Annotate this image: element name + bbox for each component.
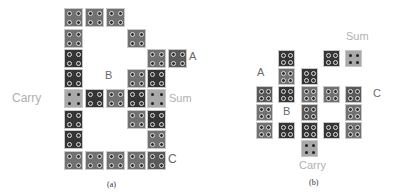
quantum-dot-icon	[326, 60, 331, 65]
quantum-dot-icon	[288, 71, 293, 76]
label-a-b: A	[257, 67, 264, 78]
quantum-dot-icon	[281, 96, 286, 101]
qca-cell	[345, 50, 362, 67]
quantum-dot-icon	[259, 96, 264, 101]
quantum-dot-icon	[259, 125, 264, 130]
quantum-dot-icon	[266, 125, 271, 130]
quantum-dot-icon	[348, 114, 353, 119]
quantum-dot-icon	[305, 151, 308, 154]
quantum-dot-icon	[355, 89, 360, 94]
label-carry-b: Carry	[299, 160, 326, 171]
quantum-dot-icon	[259, 132, 264, 137]
quantum-dot-icon	[356, 61, 359, 64]
quantum-dot-icon	[333, 96, 338, 101]
quantum-dot-icon	[281, 60, 286, 65]
quantum-dot-icon	[311, 78, 316, 83]
quantum-dot-icon	[356, 54, 359, 57]
label-b-b: B	[283, 106, 290, 117]
quantum-dot-icon	[326, 125, 331, 130]
quantum-dot-icon	[355, 107, 360, 112]
qca-cell	[301, 140, 318, 157]
quantum-dot-icon	[326, 132, 331, 137]
quantum-dot-icon	[304, 107, 309, 112]
qca-cell	[345, 122, 362, 139]
quantum-dot-icon	[288, 78, 293, 83]
quantum-dot-icon	[281, 71, 286, 76]
quantum-dot-icon	[304, 89, 309, 94]
quantum-dot-icon	[288, 60, 293, 65]
quantum-dot-icon	[304, 96, 309, 101]
qca-cell	[301, 68, 318, 85]
qca-cell	[256, 86, 273, 103]
quantum-dot-icon	[311, 114, 316, 119]
quantum-dot-icon	[266, 89, 271, 94]
quantum-dot-icon	[355, 125, 360, 130]
quantum-dot-icon	[348, 125, 353, 130]
quantum-dot-icon	[326, 53, 331, 58]
quantum-dot-icon	[304, 125, 309, 130]
qca-cell	[345, 104, 362, 121]
quantum-dot-icon	[259, 107, 264, 112]
quantum-dot-icon	[304, 78, 309, 83]
quantum-dot-icon	[312, 151, 315, 154]
qca-cell	[278, 122, 295, 139]
qca-cell	[278, 86, 295, 103]
quantum-dot-icon	[311, 89, 316, 94]
quantum-dot-icon	[266, 96, 271, 101]
quantum-dot-icon	[333, 53, 338, 58]
quantum-dot-icon	[281, 89, 286, 94]
qca-cell	[278, 68, 295, 85]
qca-cell	[301, 104, 318, 121]
quantum-dot-icon	[326, 89, 331, 94]
quantum-dot-icon	[288, 96, 293, 101]
quantum-dot-icon	[311, 71, 316, 76]
quantum-dot-icon	[305, 144, 308, 147]
quantum-dot-icon	[355, 96, 360, 101]
quantum-dot-icon	[266, 132, 271, 137]
label-sum-b: Sum	[346, 31, 369, 42]
quantum-dot-icon	[288, 89, 293, 94]
quantum-dot-icon	[266, 114, 271, 119]
quantum-dot-icon	[311, 96, 316, 101]
quantum-dot-icon	[288, 132, 293, 137]
qca-cell	[301, 122, 318, 139]
caption-b: (b)	[309, 178, 318, 187]
quantum-dot-icon	[326, 96, 331, 101]
label-c-b: C	[373, 88, 381, 99]
quantum-dot-icon	[266, 107, 271, 112]
quantum-dot-icon	[311, 107, 316, 112]
qca-cell	[256, 104, 273, 121]
qca-cell	[323, 122, 340, 139]
quantum-dot-icon	[311, 125, 316, 130]
quantum-dot-icon	[281, 125, 286, 130]
quantum-dot-icon	[333, 89, 338, 94]
quantum-dot-icon	[349, 54, 352, 57]
qca-cell	[345, 86, 362, 103]
quantum-dot-icon	[348, 96, 353, 101]
quantum-dot-icon	[259, 114, 264, 119]
quantum-dot-icon	[355, 132, 360, 137]
quantum-dot-icon	[288, 125, 293, 130]
quantum-dot-icon	[348, 132, 353, 137]
quantum-dot-icon	[259, 89, 264, 94]
quantum-dot-icon	[333, 132, 338, 137]
qca-cell	[256, 122, 273, 139]
quantum-dot-icon	[348, 107, 353, 112]
quantum-dot-icon	[288, 53, 293, 58]
qca-cell	[278, 50, 295, 67]
qca-cell	[323, 50, 340, 67]
quantum-dot-icon	[281, 78, 286, 83]
quantum-dot-icon	[333, 60, 338, 65]
quantum-dot-icon	[281, 53, 286, 58]
quantum-dot-icon	[281, 132, 286, 137]
quantum-dot-icon	[312, 144, 315, 147]
quantum-dot-icon	[348, 89, 353, 94]
quantum-dot-icon	[311, 132, 316, 137]
quantum-dot-icon	[349, 61, 352, 64]
quantum-dot-icon	[304, 114, 309, 119]
quantum-dot-icon	[304, 71, 309, 76]
quantum-dot-icon	[333, 125, 338, 130]
quantum-dot-icon	[355, 114, 360, 119]
qca-cell	[301, 86, 318, 103]
qca-cell	[323, 86, 340, 103]
